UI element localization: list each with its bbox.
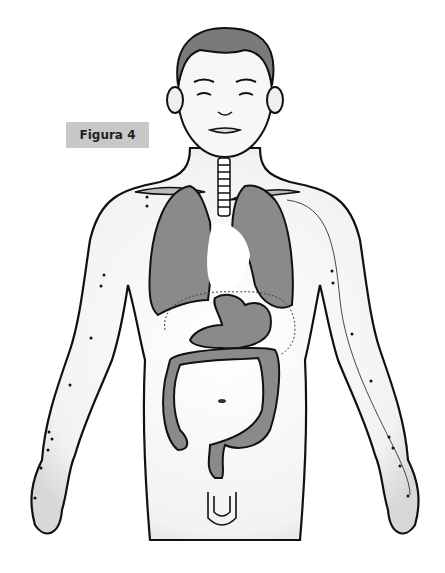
anatomy-illustration xyxy=(0,0,445,573)
navel xyxy=(218,399,226,403)
trachea xyxy=(218,158,230,216)
head xyxy=(167,28,283,157)
